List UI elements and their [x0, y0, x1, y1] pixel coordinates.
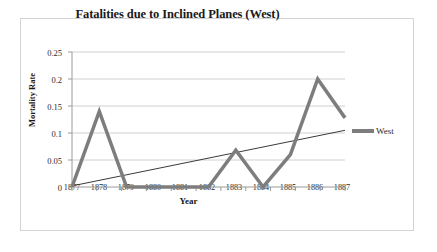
gridlines — [72, 52, 345, 160]
legend-swatch-west — [352, 129, 374, 133]
legend-label-west: West — [376, 126, 394, 136]
legend: West — [352, 126, 394, 136]
trendline — [72, 130, 345, 186]
chart-container: Fatalities due to Inclined Planes (West)… — [0, 0, 437, 252]
y-tick-marks — [68, 52, 72, 187]
